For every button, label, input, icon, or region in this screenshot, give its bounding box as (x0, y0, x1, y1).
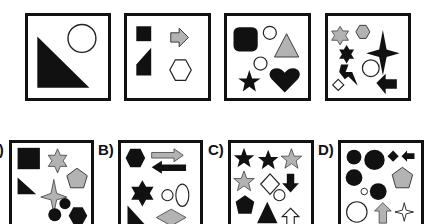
triangle-icon (274, 34, 298, 57)
circle-icon (48, 208, 61, 221)
panel-shapes (328, 16, 408, 98)
rounded-square-icon (234, 27, 258, 51)
circle-icon (274, 190, 285, 201)
diamond-icon (156, 209, 186, 224)
option-panel-b[interactable] (118, 140, 203, 224)
panel-shapes (227, 16, 308, 98)
panel-shapes (28, 16, 108, 98)
option-panel-c[interactable] (228, 140, 314, 224)
four-point-star-icon (395, 203, 414, 222)
hexagon-icon (69, 207, 88, 224)
square-icon (136, 26, 151, 41)
heart-icon (270, 68, 300, 92)
panel-shapes (127, 16, 208, 98)
star-icon (258, 150, 278, 170)
arrow-down-icon (282, 174, 299, 193)
star-icon (238, 70, 260, 91)
hexagon-icon (170, 60, 191, 80)
option-panel-d[interactable] (338, 140, 424, 224)
arrow-up-icon (374, 203, 391, 223)
circle-icon (254, 57, 267, 70)
diamond-icon (333, 79, 344, 90)
pentagon-icon (67, 168, 87, 188)
circle-icon (370, 183, 387, 200)
triangle-icon (257, 202, 277, 223)
circle-icon (347, 150, 362, 165)
arrow-left-icon (376, 74, 396, 94)
six-point-star-icon (48, 149, 67, 173)
circle-icon (162, 190, 173, 201)
star-icon (234, 171, 254, 191)
question-panel-3 (224, 13, 311, 101)
hexagon-icon (126, 149, 146, 168)
arrow-up-icon (282, 208, 299, 224)
six-point-star-icon (332, 26, 349, 45)
circle-icon (59, 198, 70, 209)
star-icon (281, 149, 301, 169)
arrow-right-icon (152, 149, 184, 162)
question-panel-1 (25, 13, 111, 101)
panel-shapes (12, 143, 91, 224)
six-point-star-icon (131, 180, 153, 206)
pentagon-icon (236, 195, 255, 214)
arrow-left-icon (401, 151, 414, 162)
six-point-star-icon (339, 45, 354, 64)
question-panel-4 (325, 13, 411, 101)
circle-icon (346, 169, 363, 186)
option-label-d: D) (318, 141, 334, 158)
trapezoid-icon (136, 48, 151, 76)
circle-icon (68, 24, 96, 52)
circle-icon (263, 26, 276, 39)
option-label-c: C) (208, 141, 224, 158)
arrow-right-icon (171, 28, 189, 47)
circle-icon (347, 202, 367, 222)
circle-icon (362, 60, 379, 77)
option-panel-a[interactable] (9, 140, 94, 224)
triangle-icon (128, 205, 148, 224)
star-icon (234, 148, 254, 168)
pentagon-icon (392, 167, 412, 187)
option-label-b: B) (98, 141, 114, 158)
circle-icon (364, 150, 384, 170)
square-icon (18, 148, 40, 169)
panel-shapes (341, 143, 421, 224)
option-label-a: A) (0, 141, 4, 158)
arrow-left-icon (152, 161, 186, 174)
hexagon-icon (356, 25, 370, 38)
diamond-icon (388, 151, 399, 162)
panel-shapes (121, 143, 200, 224)
question-panel-2 (124, 13, 211, 101)
panel-shapes (231, 143, 311, 224)
ellipse-icon (176, 184, 189, 206)
circle-icon (361, 188, 368, 195)
triangle-icon (18, 178, 37, 195)
